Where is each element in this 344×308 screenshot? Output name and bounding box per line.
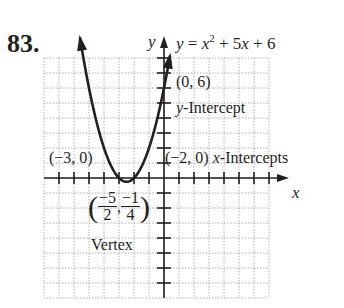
vertex-caption: Vertex (91, 237, 133, 253)
vertex-point-label: (−52,−14) (88, 190, 150, 223)
y-axis-label: y (148, 33, 156, 50)
x-intercept-left-label: (−3, 0) (49, 150, 93, 166)
y-intercept-caption: y-Intercept (176, 100, 245, 116)
parabola-curve (80, 38, 170, 182)
x-intercept-right-label: (−2, 0) x-Intercepts (165, 150, 288, 166)
curve-arrowheads (77, 35, 173, 70)
y-intercept-point-label: (0, 6) (176, 74, 211, 90)
equation-label: y = x2 + 5x + 6 (176, 33, 275, 52)
x-axis-label: x (292, 184, 300, 201)
